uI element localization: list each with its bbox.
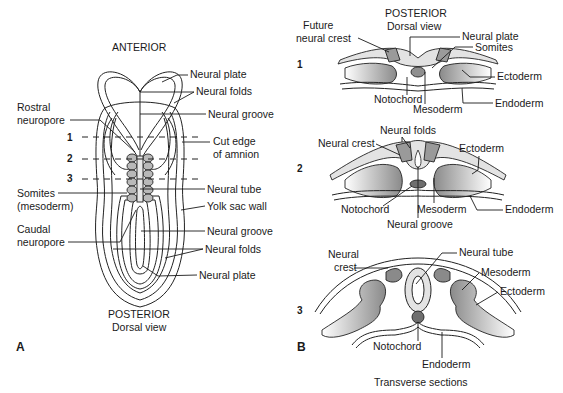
label-yolk-sac-wall: Yolk sac wall [207, 200, 267, 212]
label-neural-plate-posterior: Neural plate [199, 269, 256, 281]
anterior-title: ANTERIOR [112, 41, 167, 53]
label-caudal-neuropore: neuropore [17, 236, 65, 248]
s2-label-neural-crest: Neural crest [318, 137, 375, 149]
s1-label-ectoderm: Ectoderm [497, 70, 542, 82]
dorsal-view-b: Dorsal view [387, 20, 442, 32]
dorsal-view-a: Dorsal view [112, 321, 167, 333]
label-of-amnion: of amnion [213, 148, 259, 160]
panel-label-b: B [297, 340, 306, 354]
s3-label-endoderm: Endoderm [422, 358, 471, 370]
s1-label-neural-crest: neural crest [296, 32, 351, 44]
s2-label-endoderm: Endoderm [505, 203, 554, 215]
s3-label-ectoderm: Ectoderm [500, 285, 545, 297]
section-number-1: 1 [297, 59, 303, 70]
label-neural-groove-anterior: Neural groove [208, 108, 274, 120]
s3-label-crest: crest [334, 261, 357, 273]
s3-label-neural: Neural [328, 248, 359, 260]
section-marker-1: 1 [67, 132, 73, 143]
s3-label-mesoderm: Mesoderm [481, 266, 531, 278]
label-rostral: Rostral [17, 101, 50, 113]
posterior-title-b: POSTERIOR [385, 7, 447, 19]
s2-label-notochord: Notochord [341, 203, 390, 215]
posterior-title-a: POSTERIOR [108, 308, 170, 320]
panel-label-a: A [16, 340, 25, 354]
s1-label-mesoderm: Mesoderm [413, 103, 463, 115]
s1-label-endoderm: Endoderm [495, 97, 544, 109]
label-mesoderm-paren: (mesoderm) [17, 200, 74, 212]
embryo-diagram: ANTERIOR 1 2 3 Neural plate Neural folds… [0, 0, 563, 393]
section-1 [338, 48, 498, 91]
label-neural-groove-posterior: Neural groove [207, 225, 273, 237]
s2-label-ectoderm: Ectoderm [459, 142, 504, 154]
s2-label-mesoderm: Mesoderm [417, 203, 467, 215]
section-number-3: 3 [297, 305, 303, 316]
label-neural-tube: Neural tube [207, 183, 261, 195]
label-neural-plate-anterior: Neural plate [190, 68, 247, 80]
s1-label-future: Future [303, 19, 334, 31]
label-neural-folds-posterior: Neural folds [205, 243, 261, 255]
label-somites: Somites [17, 187, 55, 199]
transverse-sections-caption: Transverse sections [374, 376, 468, 388]
s1-label-somites: Somites [475, 41, 513, 53]
section-marker-2: 2 [67, 153, 73, 164]
s2-label-neural-folds: Neural folds [380, 124, 436, 136]
s3-label-notochord: Notochord [373, 340, 422, 352]
section-marker-3: 3 [67, 173, 73, 184]
section-number-2: 2 [297, 163, 303, 174]
label-caudal: Caudal [17, 223, 50, 235]
label-neural-folds-anterior: Neural folds [196, 85, 252, 97]
label-rostral-neuropore: neuropore [17, 114, 65, 126]
s2-label-neural-groove: Neural groove [387, 218, 453, 230]
s3-label-neural-tube: Neural tube [459, 246, 513, 258]
label-cut-edge: Cut edge [213, 135, 256, 147]
